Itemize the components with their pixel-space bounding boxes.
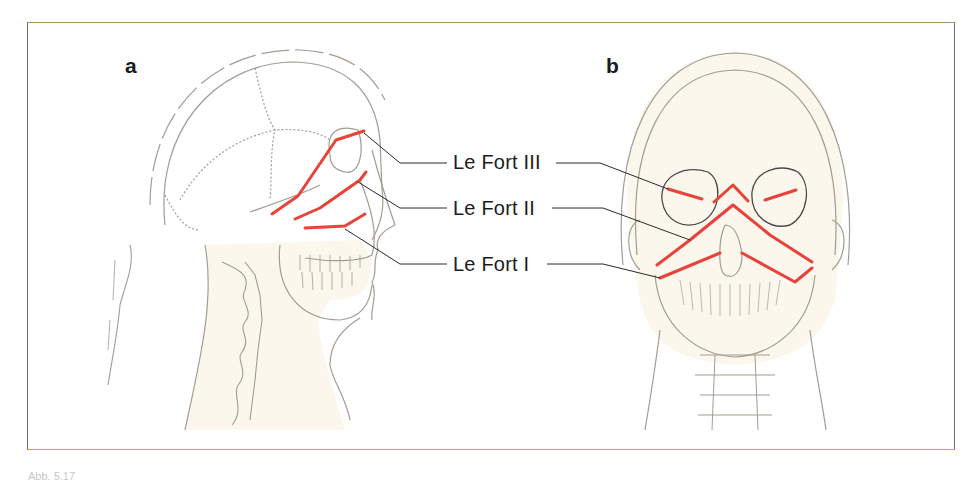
leader-lefort3-left — [364, 133, 447, 163]
lateral-fracture-lines — [272, 131, 366, 228]
lateral-lefort2-line — [295, 172, 366, 219]
zygomatic-arch — [250, 185, 320, 212]
panel-letter-a: a — [125, 54, 137, 78]
frontal-head-fill — [627, 52, 843, 365]
frontal-skull — [621, 52, 849, 430]
leader-lefort2-left — [358, 182, 447, 208]
lateral-scalp — [150, 50, 385, 205]
label-le-fort-3: Le Fort III — [453, 151, 541, 174]
lateral-skull — [108, 50, 395, 430]
frontal-cervical-spine — [695, 355, 775, 430]
label-le-fort-2: Le Fort II — [453, 197, 535, 220]
squamous-suture — [180, 129, 330, 200]
lateral-lefort1-line — [305, 214, 365, 228]
frontal-neck-left — [645, 330, 660, 430]
illustration — [0, 0, 976, 481]
label-le-fort-1: Le Fort I — [453, 253, 529, 276]
coronal-suture — [255, 68, 275, 200]
figure-caption: Abb. 5.17 — [28, 470, 75, 481]
lambdoid-suture — [165, 195, 200, 230]
frontal-neck-right — [810, 330, 826, 430]
panel-letter-b: b — [606, 54, 619, 78]
shoulder-outline — [108, 245, 131, 385]
shoulder-outline-2 — [108, 260, 115, 350]
